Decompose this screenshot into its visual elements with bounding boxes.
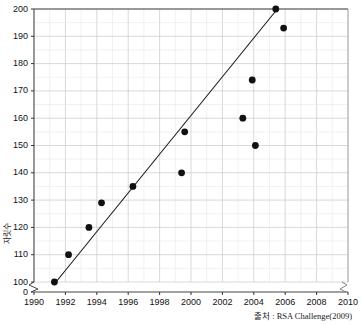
y-tick-label: 150 — [0, 141, 28, 150]
y-tick-label: 110 — [0, 250, 28, 259]
x-tick-label: 1990 — [17, 298, 51, 307]
x-tick-label: 2006 — [268, 298, 302, 307]
y-tick-label: 190 — [0, 32, 28, 41]
x-tick-label: 2008 — [300, 298, 334, 307]
x-tick-label: 1992 — [48, 298, 82, 307]
data-point — [252, 142, 259, 149]
data-point — [51, 279, 58, 286]
data-point — [130, 183, 137, 190]
data-point — [86, 224, 93, 231]
x-tick-label: 2002 — [205, 298, 239, 307]
x-tick-label: 1998 — [143, 298, 177, 307]
data-point — [178, 169, 185, 176]
y-axis-break-symbol — [29, 282, 38, 292]
x-tick-label: 1996 — [111, 298, 145, 307]
data-point — [181, 128, 188, 135]
y-tick-label: 100 — [0, 278, 28, 287]
x-axis-break-symbol — [340, 282, 347, 292]
data-point — [249, 77, 256, 84]
x-tick-label: 2010 — [331, 298, 363, 307]
y-tick-label: 130 — [0, 196, 28, 205]
x-tick-label: 2000 — [174, 298, 208, 307]
y-tick-label: 160 — [0, 114, 28, 123]
data-point — [280, 25, 287, 32]
x-tick-label: 2004 — [237, 298, 271, 307]
y-tick-label: 120 — [0, 223, 28, 232]
data-point — [272, 6, 279, 13]
y-tick-label: 200 — [0, 5, 28, 14]
y-tick-label: 140 — [0, 168, 28, 177]
source-caption: 출처 : RSA Challenge(2009) — [254, 309, 352, 321]
data-point — [239, 115, 246, 122]
y-tick-label: 180 — [0, 59, 28, 68]
data-point — [98, 199, 105, 206]
y-tick-label: 170 — [0, 86, 28, 95]
y-tick-label-zero: 0 — [0, 288, 28, 297]
x-tick-label: 1994 — [80, 298, 114, 307]
data-point — [65, 251, 72, 258]
